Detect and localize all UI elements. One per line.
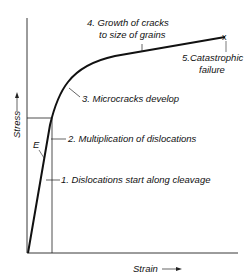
y-axis-label: Stress bbox=[11, 111, 22, 138]
stage-4-label-line2: to size of grains bbox=[99, 29, 166, 40]
modulus-label: E bbox=[33, 139, 40, 150]
leader-3 bbox=[69, 88, 80, 97]
stage-5-label-line1: 5.Catastrophic bbox=[182, 52, 244, 63]
leader-e bbox=[39, 150, 44, 158]
stress-strain-diagram: x E 1. Dislocations start along cleavage… bbox=[0, 0, 249, 280]
failure-marker: x bbox=[222, 32, 227, 42]
stress-strain-curve bbox=[28, 37, 225, 253]
stage-4-label-line1: 4. Growth of cracks bbox=[87, 17, 169, 28]
stage-2-label: 2. Multiplication of dislocations bbox=[67, 133, 197, 144]
stage-1-label: 1. Dislocations start along cleavage bbox=[61, 174, 210, 185]
x-axis-label: Strain bbox=[133, 263, 158, 274]
stage-3-label: 3. Microcracks develop bbox=[82, 93, 179, 104]
x-axis-arrow-icon bbox=[176, 267, 182, 271]
y-axis-arrow-icon bbox=[15, 92, 19, 98]
stage-5-label-line2: failure bbox=[199, 64, 225, 75]
